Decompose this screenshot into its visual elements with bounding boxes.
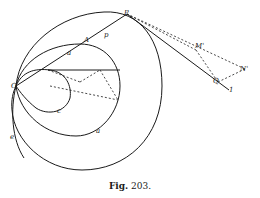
figure-caption: Fig. 203.: [0, 181, 260, 191]
label-1: 1: [229, 87, 233, 94]
dashed-inner-4: [50, 86, 118, 100]
label-e: e: [10, 134, 14, 141]
label-N-prime: N': [240, 66, 248, 73]
label-A: A: [84, 37, 89, 44]
label-a: a: [96, 128, 100, 135]
medium-circle: [16, 44, 120, 136]
label-M-prime: M': [195, 43, 204, 50]
label-Q: Q: [213, 78, 219, 85]
small-circle: [16, 70, 70, 113]
dashed-P-M: [127, 14, 196, 50]
label-O: O: [11, 83, 17, 90]
ray-O-P: [16, 14, 127, 86]
label-p: p: [104, 32, 108, 39]
label-P: P: [124, 10, 129, 17]
dashed-inner-3: [100, 70, 118, 100]
label-c: c: [57, 108, 61, 115]
label-a-on-line: a: [67, 50, 71, 57]
geometric-figure: [0, 0, 260, 198]
dashed-inner-2: [80, 70, 100, 82]
caption-number: 203.: [131, 181, 151, 191]
caption-prefix: Fig.: [109, 181, 128, 191]
dashed-inner-1: [48, 70, 80, 82]
dashed-P-N: [127, 14, 245, 69]
